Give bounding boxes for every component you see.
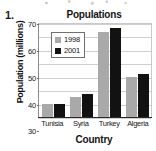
x-axis-tick-label: Turkey	[95, 119, 124, 128]
bar-group	[95, 24, 123, 117]
bar-tunisia-1998	[42, 104, 53, 117]
x-axis-tick-label: Syria	[67, 119, 96, 128]
x-axis-tick-labels: TunisiaSyriaTurkeyAlgeria	[38, 119, 152, 128]
bar-syria-2001	[82, 94, 93, 117]
bar-group	[123, 24, 151, 117]
chart-screenshot: 1. Populations Population (millions) 010…	[0, 0, 156, 151]
bar-algeria-2001	[138, 74, 149, 117]
legend-swatch-icon	[55, 37, 61, 43]
bar-algeria-1998	[126, 77, 137, 117]
bar-tunisia-2001	[54, 104, 65, 117]
y-axis-tick-mark	[37, 131, 39, 132]
bar-turkey-1998	[98, 32, 109, 117]
item-number: 1.	[5, 9, 14, 21]
legend-swatch-icon	[55, 48, 61, 54]
legend-label: 1998	[64, 35, 80, 44]
scan-artifact	[34, 0, 138, 5]
x-axis-tick-label: Tunisia	[38, 119, 67, 128]
legend-label: 2001	[64, 46, 80, 55]
legend: 19982001	[51, 32, 85, 58]
x-axis-tick-label: Algeria	[124, 119, 153, 128]
x-axis-title: Country	[36, 134, 152, 145]
legend-item-2001: 2001	[55, 46, 80, 55]
bar-syria-1998	[70, 97, 81, 117]
x-axis-line	[38, 117, 152, 118]
chart-title: Populations	[36, 9, 152, 20]
bar-turkey-2001	[110, 28, 121, 117]
y-axis-title: Population (millions)	[15, 6, 25, 118]
legend-item-1998: 1998	[55, 35, 80, 44]
